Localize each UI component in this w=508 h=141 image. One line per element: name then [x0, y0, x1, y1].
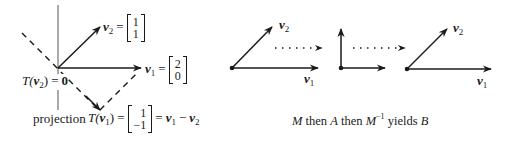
- T-prefix: T(: [22, 73, 34, 88]
- matrix-entry: 1: [133, 28, 139, 40]
- caption-M-inverse: M: [366, 114, 376, 128]
- zero-vector: 0: [62, 73, 69, 88]
- projection-label: projection: [33, 112, 86, 125]
- caption: M then A then M−1 yields B: [292, 113, 428, 128]
- v2-definition-label: v2=11: [103, 14, 145, 42]
- v1-definition-label: v1=20: [145, 56, 187, 84]
- superscript: −1: [376, 112, 385, 121]
- column-vector: 1−1: [128, 105, 153, 133]
- T-prefix: T(: [88, 110, 100, 125]
- panel1-v1-label: v1: [304, 72, 314, 88]
- equals-sign: =: [114, 110, 127, 125]
- equals-sign: =: [152, 110, 165, 125]
- subscript: 1: [483, 80, 488, 90]
- matrix-entry: 0: [175, 70, 181, 82]
- subscript: 2: [459, 27, 464, 37]
- column-vector: 20: [169, 56, 187, 84]
- caption-text: then: [302, 114, 330, 128]
- subscript: 1: [310, 78, 315, 88]
- equals-sign: =: [155, 61, 168, 76]
- Tv1-result-label: T(v1)=1−1=v1−v2: [88, 105, 200, 133]
- column-vector: 11: [127, 14, 145, 42]
- panel3-arrow-v2: [407, 29, 447, 69]
- equals-sign: =: [48, 73, 61, 88]
- panel3-v1-label: v1: [477, 74, 487, 90]
- matrix-entry: −1: [134, 119, 147, 131]
- subscript: 2: [285, 24, 290, 34]
- subscript: 2: [195, 117, 200, 127]
- panel3-v2-label: v2: [453, 21, 463, 37]
- arrow-v2: [58, 27, 100, 68]
- Tv2-zero-label: T(v2)=0: [22, 74, 68, 90]
- minus-sign: −: [176, 110, 189, 125]
- caption-B: B: [421, 114, 429, 128]
- panel1-arrow-v2: [232, 27, 272, 68]
- panel1-v2-label: v2: [279, 18, 289, 34]
- caption-text: yields: [385, 114, 421, 128]
- right-basis-change-diagram: [230, 27, 491, 71]
- caption-A: A: [330, 114, 338, 128]
- caption-M: M: [292, 114, 302, 128]
- equals-sign: =: [113, 19, 126, 34]
- caption-text: then: [338, 114, 366, 128]
